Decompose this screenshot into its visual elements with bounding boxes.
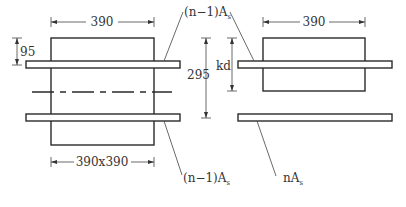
- effective-depth-dimension: 295: [187, 38, 211, 118]
- compression-steel-leader: [230, 12, 254, 61]
- cover-label: 95: [20, 45, 35, 59]
- compression-steel-strip: [238, 61, 392, 68]
- neutral-axis-dimension: kd: [216, 38, 237, 91]
- right-width-label: 390: [303, 15, 326, 29]
- right-width-dimension: 390: [263, 15, 365, 29]
- effective-depth-label: 295: [187, 68, 210, 82]
- top-steel-leader: [164, 12, 183, 61]
- section-size-label: 390x390: [76, 155, 129, 169]
- tension-steel-strip: [238, 114, 392, 121]
- left-section: 390 95 390x390 (n−1)As (n−1)As: [12, 5, 231, 187]
- bottom-steel-label: (n−1)As: [183, 171, 230, 187]
- tension-steel-label: nAs: [283, 171, 303, 187]
- top-width-label: 390: [91, 15, 114, 29]
- right-section: 390 kd nAs: [216, 12, 392, 187]
- bottom-steel-leader: [164, 121, 182, 175]
- top-steel-strip: [26, 61, 180, 68]
- section-diagram: 390 95 390x390 (n−1)As (n−1)As: [0, 0, 406, 207]
- tension-steel-leader: [257, 121, 276, 176]
- bottom-steel-strip: [26, 114, 180, 121]
- bottom-size-dimension: 390x390: [51, 155, 154, 169]
- neutral-axis-label: kd: [216, 59, 231, 73]
- top-steel-label: (n−1)As: [184, 5, 231, 21]
- top-width-dimension: 390: [51, 15, 154, 29]
